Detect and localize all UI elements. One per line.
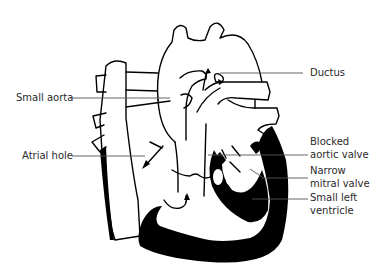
label-narrow-mitral-valve-1: Narrow xyxy=(310,165,346,177)
label-narrow-mitral-valve-2: mitral valve xyxy=(310,178,370,190)
label-small-left-ventricle-2: ventricle xyxy=(310,205,354,217)
label-small-left-ventricle-1: Small left xyxy=(310,192,357,204)
label-ductus: Ductus xyxy=(310,67,345,79)
tricuspid-arrow xyxy=(184,193,190,200)
right-atrium xyxy=(145,142,218,208)
label-blocked-aortic-valve-1: Blocked xyxy=(310,136,349,148)
heart-diagram: Small aorta Atrial hole Ductus Blocked a… xyxy=(0,0,380,274)
label-blocked-aortic-valve-2: aortic valve xyxy=(310,149,369,161)
label-small-aorta: Small aorta xyxy=(16,92,73,104)
label-atrial-hole: Atrial hole xyxy=(22,150,73,162)
